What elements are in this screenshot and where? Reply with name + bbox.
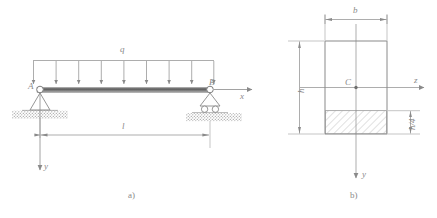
load-arrows [34,61,214,84]
label-axis-z: z [414,76,418,85]
roller-wheel-left [201,106,207,112]
roller-hinge-circle [207,86,214,93]
label-axis-y: y [44,162,48,171]
label-axis-x: x [240,92,244,101]
roller-triangle [200,93,220,106]
centroid-point [354,86,357,89]
label-shaded-height-h-over-4: h/4 [408,118,417,130]
label-height-h: h [297,89,306,94]
label-distributed-load-q: q [120,45,125,54]
figure-canvas [0,0,437,218]
roller-wheel-right [212,106,218,112]
span-arrowhead-left [41,134,48,137]
label-support-a: A [28,82,34,91]
hq-arrowhead-top [409,111,412,117]
label-width-b: b [353,6,358,15]
beam-member [37,88,210,93]
label-panel-b-axis-y: y [362,170,366,179]
caption-panel-b: b) [350,191,358,200]
panel-b-cross-section [288,14,424,178]
label-span-l: l [122,122,125,131]
panel-a-beam-diagram [12,61,252,171]
caption-panel-a: a) [128,191,135,200]
roller-ground-hatch [186,113,242,121]
engineering-figure: q A B x y l a) b h h/4 C z y b) [0,0,437,218]
label-centroid-c: C [345,78,351,87]
b-arrowhead-left [325,18,332,21]
distributed-load-group [33,61,214,85]
label-support-b: B [209,78,215,87]
h-arrowhead-top [298,41,301,48]
pin-hinge-circle [37,86,44,93]
